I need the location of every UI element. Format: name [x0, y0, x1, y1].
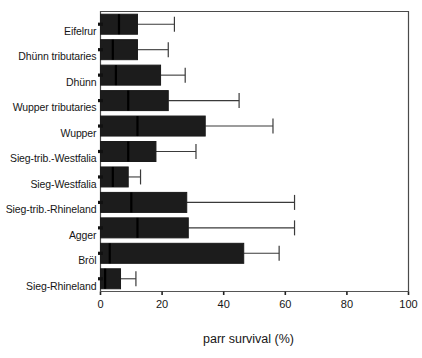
- x-tick-label: 80: [341, 298, 353, 310]
- boxplot-group: [101, 91, 240, 111]
- category-tick: [98, 277, 103, 280]
- category-label: Agger: [69, 229, 97, 241]
- category-label: Wupper: [61, 127, 97, 139]
- category-tick: [98, 175, 103, 178]
- category-tick: [98, 124, 103, 127]
- category-tick: [98, 201, 103, 204]
- boxplot-group: [101, 269, 136, 289]
- x-tick-label: 20: [156, 298, 168, 310]
- category-tick: [98, 23, 103, 26]
- boxplot-group: [101, 14, 175, 34]
- boxplot-group: [101, 167, 141, 187]
- box-rect: [101, 116, 206, 136]
- boxplot-group: [101, 243, 280, 263]
- category-tick: [98, 226, 103, 229]
- x-tick-label: 100: [399, 298, 417, 310]
- category-label: Dhünn: [66, 76, 96, 88]
- category-label: Sieg-trib.-Westfalia: [10, 152, 97, 164]
- category-tick: [98, 252, 103, 255]
- category-label: Wupper tributaries: [13, 101, 97, 113]
- category-label: Eifelrur: [64, 25, 96, 37]
- box-rect: [101, 218, 189, 238]
- boxplot-group: [101, 142, 196, 162]
- boxplot-group: [101, 218, 295, 238]
- box-rect: [101, 192, 187, 212]
- category-tick: [98, 48, 103, 51]
- box-rect: [101, 65, 161, 85]
- boxplot-group: [101, 116, 273, 136]
- x-tick-label: 40: [218, 298, 230, 310]
- x-axis-title: parr survival (%): [203, 332, 294, 346]
- box-rect: [101, 91, 169, 111]
- boxplot-group: [101, 40, 169, 60]
- box-rect: [101, 167, 129, 187]
- category-label: Dhünn tributaries: [18, 50, 96, 62]
- category-tick: [98, 99, 103, 102]
- box-rect: [101, 40, 138, 60]
- x-tick-label: 0: [97, 298, 103, 310]
- boxplot-chart: EifelrurDhünn tributariesDhünnWupper tri…: [0, 0, 422, 358]
- boxplot-group: [101, 192, 295, 212]
- category-label: Sieg-Westfalia: [30, 178, 96, 190]
- box-rect: [101, 243, 244, 263]
- category-label: Sieg-trib.-Rhineland: [6, 203, 97, 215]
- box-rect: [101, 269, 121, 289]
- category-tick: [98, 150, 103, 153]
- x-tick-label: 60: [279, 298, 291, 310]
- category-tick: [98, 74, 103, 77]
- category-label: Bröl: [78, 254, 96, 266]
- boxplot-group: [101, 65, 186, 85]
- category-label: Sieg-Rhineland: [26, 280, 96, 292]
